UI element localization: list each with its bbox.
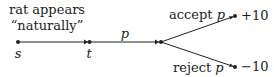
annotation-line1: rat appears [9, 2, 85, 17]
annotation-line2: “naturally” [11, 18, 84, 33]
reject-label: reject p [173, 60, 224, 75]
accept-label: accept p [169, 7, 226, 22]
node-s [16, 40, 20, 44]
reject-payoff: −10 [241, 59, 268, 74]
decision-diagram: rat appears “naturally” s t p accept p +… [0, 0, 274, 77]
node-s-label: s [15, 46, 22, 61]
accept-payoff: +10 [241, 8, 268, 23]
arrow-to-branch-icon [155, 40, 159, 45]
node-reject [233, 65, 237, 69]
node-t [88, 40, 92, 44]
edge-label-p: p [121, 26, 130, 41]
node-t-label: t [86, 46, 92, 61]
node-accept [233, 14, 237, 18]
arrow-to-t-icon [84, 40, 88, 45]
node-branch [159, 40, 163, 44]
